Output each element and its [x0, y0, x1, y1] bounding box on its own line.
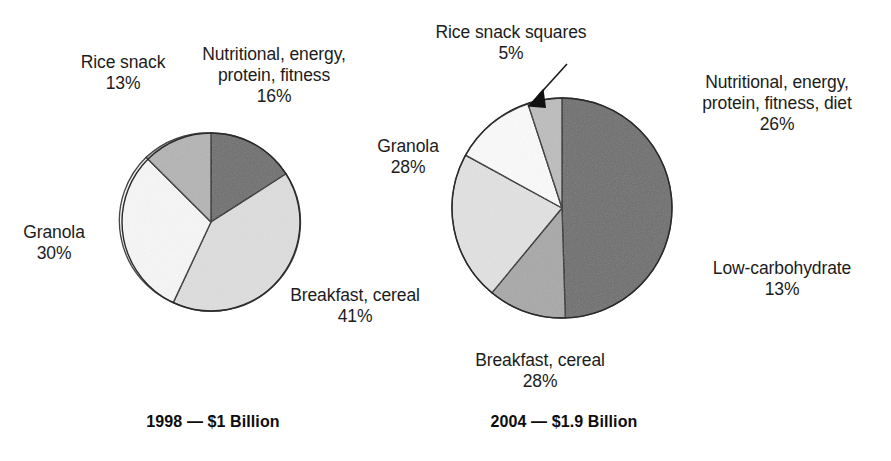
label-1998-nutritional-line2: protein, fitness — [186, 65, 362, 86]
label-2004-nutritional-line2: protein, fitness, diet — [672, 93, 882, 114]
label-1998-breakfast: Breakfast, cereal 41% — [262, 285, 448, 327]
label-1998-breakfast-name: Breakfast, cereal — [290, 285, 420, 305]
label-1998-breakfast-pct: 41% — [262, 306, 448, 327]
figure-canvas: Rice snack 13% Nutritional, energy, prot… — [0, 0, 891, 461]
label-1998-rice-snack-name: Rice snack — [81, 52, 166, 72]
label-2004-granola-name: Granola — [377, 136, 439, 156]
label-2004-rice-snack-squares-name: Rice snack squares — [436, 22, 587, 42]
label-1998-rice-snack-pct: 13% — [58, 73, 188, 94]
label-2004-granola: Granola 28% — [352, 136, 464, 178]
label-2004-lowcarb-pct: 13% — [682, 279, 882, 300]
label-1998-granola-pct: 30% — [0, 243, 114, 264]
label-1998-granola: Granola 30% — [0, 222, 114, 264]
label-2004-rice-snack-squares: Rice snack squares 5% — [406, 22, 616, 64]
label-1998-nutritional: Nutritional, energy, protein, fitness 16… — [186, 44, 362, 107]
caption-1998: 1998 — $1 Billion — [121, 413, 305, 431]
caption-2004: 2004 — $1.9 Billion — [466, 413, 662, 431]
slice-2004-nutritional[interactable] — [562, 98, 672, 318]
label-2004-lowcarb-name: Low-carbohydrate — [713, 258, 851, 278]
label-1998-rice-snack: Rice snack 13% — [58, 52, 188, 94]
label-1998-granola-name: Granola — [23, 222, 85, 242]
label-2004-breakfast: Breakfast, cereal 28% — [440, 350, 640, 392]
label-2004-lowcarb: Low-carbohydrate 13% — [682, 258, 882, 300]
label-2004-nutritional-pct: 26% — [672, 114, 882, 135]
label-2004-breakfast-pct: 28% — [440, 371, 640, 392]
label-2004-nutritional: Nutritional, energy, protein, fitness, d… — [672, 72, 882, 135]
label-2004-breakfast-name: Breakfast, cereal — [475, 350, 605, 370]
label-2004-nutritional-line1: Nutritional, energy, — [705, 72, 849, 92]
label-1998-nutritional-line1: Nutritional, energy, — [202, 44, 346, 64]
label-2004-rice-snack-squares-pct: 5% — [406, 43, 616, 64]
label-2004-granola-pct: 28% — [352, 157, 464, 178]
pie-2004 — [452, 98, 672, 318]
label-1998-nutritional-pct: 16% — [186, 86, 362, 107]
